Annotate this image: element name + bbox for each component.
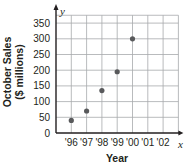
x-tick-label: '98 bbox=[95, 137, 108, 148]
x-tick-label: '02 bbox=[157, 137, 170, 148]
y-tick-label: 0 bbox=[44, 128, 50, 139]
y-axis-title: October Sales ($ millions) bbox=[1, 37, 25, 108]
y-axis-title-line2: ($ millions) bbox=[13, 44, 25, 99]
x-tick-label: '01 bbox=[141, 137, 154, 148]
data-point bbox=[115, 69, 120, 74]
y-tick-label: 100 bbox=[33, 96, 50, 107]
scatter-chart: 050100150200250300350 '96'97'98'99'00'01… bbox=[0, 0, 184, 168]
y-tick-labels: 050100150200250300350 bbox=[33, 18, 50, 139]
y-axis-arrow-icon bbox=[54, 4, 59, 10]
x-axis-arrow-icon bbox=[178, 131, 183, 136]
x-tick-label: '00 bbox=[126, 137, 139, 148]
y-tick-label: 250 bbox=[33, 49, 50, 60]
x-tick-label: '97 bbox=[80, 137, 93, 148]
data-point bbox=[69, 118, 74, 123]
x-axis-variable: x bbox=[177, 138, 183, 150]
y-axis-title-line1: October Sales bbox=[1, 37, 13, 108]
x-tick-labels: '96'97'98'99'00'01'02 bbox=[65, 137, 170, 148]
x-tick-label: '96 bbox=[65, 137, 78, 148]
data-point bbox=[130, 36, 135, 41]
y-tick-label: 150 bbox=[33, 80, 50, 91]
data-point bbox=[99, 88, 104, 93]
data-point bbox=[84, 108, 89, 113]
y-axis-variable: y bbox=[59, 5, 65, 17]
x-tick-label: '99 bbox=[111, 137, 124, 148]
y-tick-label: 300 bbox=[33, 33, 50, 44]
y-tick-label: 50 bbox=[39, 112, 51, 123]
x-axis-title: Year bbox=[106, 152, 128, 164]
y-tick-label: 350 bbox=[33, 18, 50, 29]
y-tick-label: 200 bbox=[33, 65, 50, 76]
